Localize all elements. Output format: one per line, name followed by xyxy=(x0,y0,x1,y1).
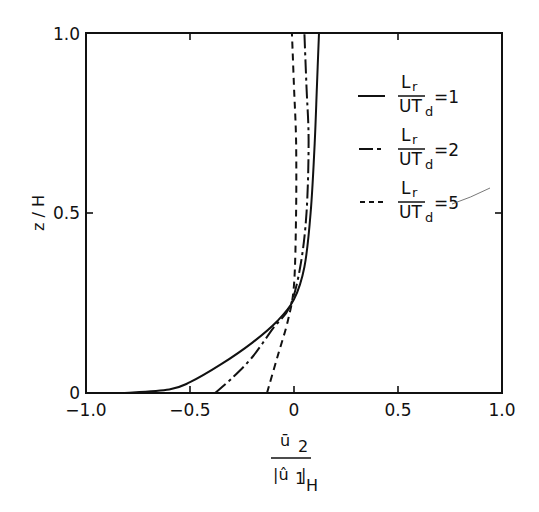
y-axis-label: z / H xyxy=(29,195,48,231)
x-ticks xyxy=(190,33,398,393)
legend-den: UT xyxy=(399,202,422,222)
legend-num-sub: r xyxy=(412,185,418,200)
y-tick-label: 0 xyxy=(69,383,80,403)
legend-num-sub: r xyxy=(412,79,418,94)
legend-num-sub: r xyxy=(412,132,418,147)
legend-entry-lr5: L r UT d =5 xyxy=(360,178,490,225)
series-layer xyxy=(123,33,319,393)
x-label-numerator-sub: 2 xyxy=(298,437,308,456)
x-tick-labels: −1.0 −0.5 0 0.5 1.0 xyxy=(65,400,515,420)
x-axis-label: ū 2 |û 1 | H xyxy=(271,431,318,495)
x-tick-label: 1.0 xyxy=(488,400,515,420)
series-line-lr5-dashed xyxy=(267,33,296,393)
y-tick-label: 1.0 xyxy=(53,24,80,44)
y-tick-labels: 0 0.5 1.0 xyxy=(53,24,80,403)
x-tick-label: 0.5 xyxy=(384,400,411,420)
y-tick-label: 0.5 xyxy=(53,203,80,223)
x-label-numerator: ū xyxy=(280,431,290,450)
legend-den: UT xyxy=(399,149,422,169)
legend: L r UT d =1 L r UT d =2 L r UT d =5 xyxy=(358,72,490,225)
legend-den: UT xyxy=(399,96,422,116)
legend-entry-lr2: L r UT d =2 xyxy=(359,125,459,172)
x-tick-label: −1.0 xyxy=(65,400,106,420)
series-line-lr1-solid xyxy=(123,33,319,393)
x-label-denominator: |û xyxy=(273,465,289,484)
series-line-lr2-dashdot xyxy=(215,33,309,393)
legend-den-sub: d xyxy=(425,104,433,119)
chart-figure: −1.0 −0.5 0 0.5 1.0 0 0.5 1.0 z / H ū 2 … xyxy=(0,0,539,512)
legend-num: L xyxy=(401,178,411,198)
legend-num: L xyxy=(401,125,411,145)
x-label-denominator-sub2: H xyxy=(306,476,318,495)
legend-value: =2 xyxy=(434,140,459,160)
legend-value: =1 xyxy=(434,87,459,107)
x-tick-label: −0.5 xyxy=(169,400,210,420)
legend-den-sub: d xyxy=(425,210,433,225)
legend-entry-lr1: L r UT d =1 xyxy=(358,72,459,119)
x-tick-label: 0 xyxy=(289,400,300,420)
legend-num: L xyxy=(401,72,411,92)
legend-den-sub: d xyxy=(425,157,433,172)
